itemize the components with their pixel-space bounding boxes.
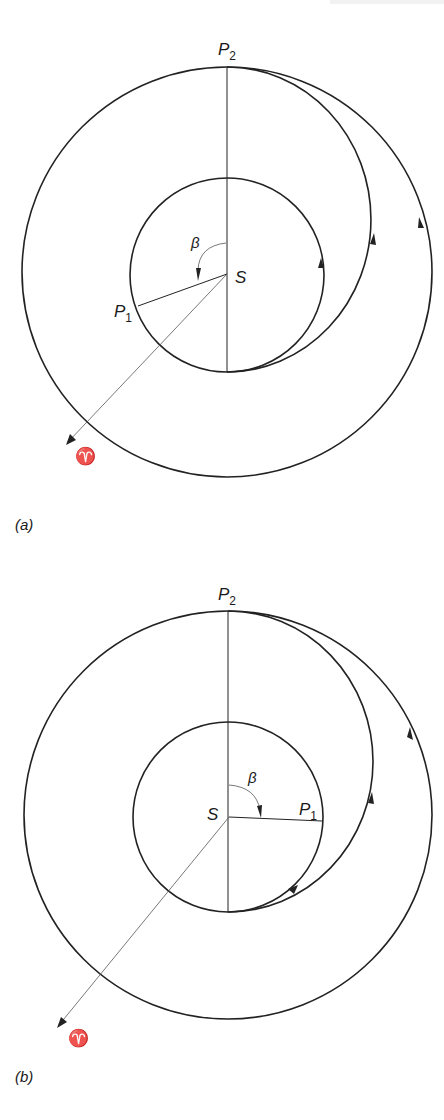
outer-orbit-direction-arrow	[418, 217, 424, 228]
beta-arrowhead	[257, 805, 262, 818]
vernal-equinox-arrowhead	[57, 1017, 67, 1028]
p1-label: P1	[299, 800, 317, 823]
p1-label: P1	[114, 302, 132, 325]
sun-label: S	[235, 268, 247, 287]
figure-b-caption: (b)	[15, 1068, 33, 1085]
figure-b: P2 S P1 β ♈ (b)	[15, 585, 432, 1085]
beta-label: β	[190, 234, 200, 251]
p2-label: P2	[218, 40, 236, 63]
figure-a: P2 S P1 β ♈ (a)	[15, 40, 432, 533]
vernal-equinox-symbol: ♈	[68, 1028, 89, 1048]
beta-label: β	[247, 769, 257, 786]
sun-label: S	[207, 805, 219, 824]
beta-arc	[198, 243, 226, 270]
transfer-orbit	[228, 611, 373, 912]
beta-arc	[229, 785, 260, 810]
beta-arrowhead	[196, 268, 201, 281]
diagram-canvas: P2 S P1 β ♈ (a) P2 S P1 β ♈ (b)	[0, 0, 444, 1120]
transfer-orbit	[227, 67, 371, 372]
vernal-equinox-line	[59, 817, 229, 1025]
figure-a-caption: (a)	[15, 516, 33, 533]
sun-to-p1-line	[138, 274, 227, 306]
vernal-equinox-symbol: ♈	[75, 446, 96, 466]
p2-label: P2	[218, 585, 236, 608]
vernal-equinox-line	[68, 274, 227, 442]
